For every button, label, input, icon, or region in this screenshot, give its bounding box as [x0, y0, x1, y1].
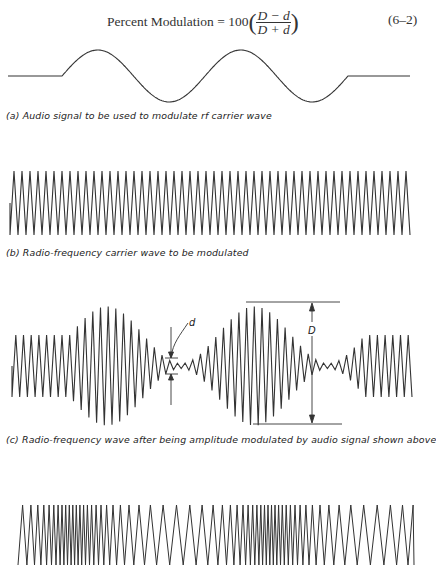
audio-signal-wave [8, 50, 410, 102]
caption-am-wave: (c) Radio-frequency wave after being amp… [6, 434, 436, 445]
caption-carrier-wave: (b) Radio-frequency carrier wave to be m… [6, 247, 249, 258]
am-modulated-wave [12, 307, 412, 426]
carrier-wave [10, 171, 410, 235]
caption-audio-signal: (a) Audio signal to be used to modulate … [6, 110, 272, 121]
D-label: D [308, 325, 316, 336]
d-label: d [189, 317, 196, 328]
fm-modulated-wave [18, 505, 414, 565]
